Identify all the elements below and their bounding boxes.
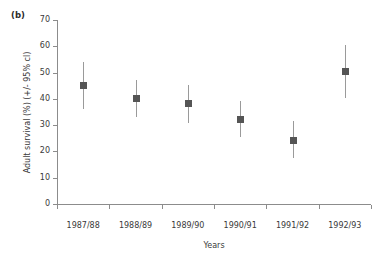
x-tick — [162, 205, 163, 209]
y-tick-label: 70 — [28, 16, 50, 24]
y-tick-label-text: 10 — [28, 174, 50, 182]
x-tick-label: 1990/91 — [214, 221, 266, 230]
y-tick — [53, 20, 57, 21]
y-tick-label: 50 — [28, 69, 50, 77]
y-tick-label-text: 70 — [28, 16, 50, 24]
y-tick — [53, 46, 57, 47]
panel-label: (b) — [11, 10, 25, 20]
y-tick-label: 0 — [28, 200, 50, 208]
data-point-marker — [80, 82, 87, 89]
y-tick — [53, 178, 57, 179]
x-tick — [109, 205, 110, 209]
y-tick-label: 20 — [28, 147, 50, 155]
x-tick — [266, 205, 267, 209]
x-tick-label: 1991/92 — [266, 221, 318, 230]
data-point-marker — [342, 68, 349, 75]
x-axis-title: Years — [57, 241, 371, 250]
x-tick — [371, 205, 372, 209]
data-point-marker — [185, 100, 192, 107]
y-tick-label: 30 — [28, 121, 50, 129]
x-tick-label: 1987/88 — [57, 221, 109, 230]
data-point-marker — [237, 116, 244, 123]
y-tick — [53, 125, 57, 126]
y-tick-label: 60 — [28, 42, 50, 50]
y-axis-line — [57, 20, 58, 205]
y-tick-label-text: 20 — [28, 147, 50, 155]
y-tick-label: 10 — [28, 174, 50, 182]
x-tick-label: 1989/90 — [162, 221, 214, 230]
y-tick — [53, 99, 57, 100]
y-tick-label: 40 — [28, 95, 50, 103]
y-tick-label-text: 60 — [28, 42, 50, 50]
x-tick-label: 1992/93 — [319, 221, 371, 230]
x-tick — [214, 205, 215, 209]
y-tick-label-text: 40 — [28, 95, 50, 103]
y-tick-label-text: 50 — [28, 69, 50, 77]
data-point-marker — [290, 137, 297, 144]
x-tick-label: 1988/89 — [109, 221, 161, 230]
data-point-marker — [133, 95, 140, 102]
y-tick-label-text: 0 — [28, 200, 50, 208]
y-tick-label-text: 30 — [28, 121, 50, 129]
x-tick — [57, 205, 58, 209]
y-tick — [53, 151, 57, 152]
figure-panel-b: (b) Adult survival (%) (+/- 95% cl) 0102… — [0, 0, 375, 259]
y-tick — [53, 73, 57, 74]
x-tick — [319, 205, 320, 209]
